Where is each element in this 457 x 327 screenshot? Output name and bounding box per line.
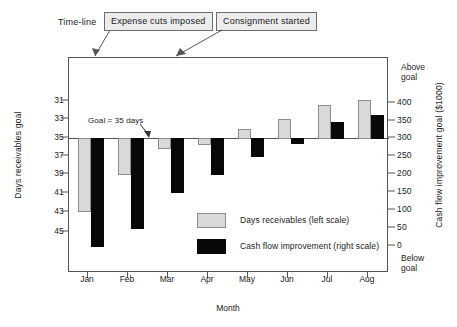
bar-days-receivables-jun bbox=[278, 119, 291, 139]
bar-days-receivables-feb bbox=[118, 138, 131, 175]
right-tick-250: 250 bbox=[397, 150, 412, 160]
right-tick-350: 350 bbox=[397, 115, 412, 125]
bar-cash-flow-aug bbox=[371, 115, 384, 139]
legend-label-days-receivables: Days receivables (left scale) bbox=[240, 215, 349, 225]
right-tick-200: 200 bbox=[397, 168, 412, 178]
right-axis-ticks: 400 350 300 250 200 150 100 50 0 bbox=[397, 0, 437, 327]
chart-figure: Time-line Expense cuts imposed Consignme… bbox=[0, 0, 457, 327]
bar-cash-flow-mar bbox=[171, 138, 184, 193]
right-tick-150: 150 bbox=[397, 186, 412, 196]
x-tick-aug: Aug bbox=[359, 274, 374, 284]
x-tick-mar: Mar bbox=[160, 274, 175, 284]
right-tick-100: 100 bbox=[397, 204, 412, 214]
bar-days-receivables-apr bbox=[198, 138, 211, 145]
bar-days-receivables-jul bbox=[318, 105, 331, 139]
x-tick-jul: Jul bbox=[322, 274, 333, 284]
legend-swatch-cash-flow bbox=[197, 239, 226, 254]
x-tick-jan: Jan bbox=[80, 274, 94, 284]
legend-label-cash-flow: Cash flow improvement (right scale) bbox=[240, 241, 379, 251]
bar-days-receivables-may bbox=[238, 129, 251, 139]
bar-cash-flow-may bbox=[251, 138, 264, 157]
bar-days-receivables-mar bbox=[158, 138, 171, 149]
bar-cash-flow-apr bbox=[211, 138, 224, 175]
right-tick-400: 400 bbox=[397, 97, 412, 107]
x-axis-title: Month bbox=[68, 303, 388, 313]
right-tick-50: 50 bbox=[397, 222, 407, 232]
left-tick-45: 45 bbox=[4, 226, 64, 236]
callout-consignment: Consignment started bbox=[216, 12, 317, 31]
x-tick-feb: Feb bbox=[120, 274, 135, 284]
plot-area: Days receivables (left scale) Cash flow … bbox=[68, 57, 388, 272]
x-tick-may: May bbox=[239, 274, 255, 284]
x-tick-apr: Apr bbox=[200, 274, 213, 284]
bar-cash-flow-jun bbox=[291, 138, 304, 144]
left-axis-title: Days receivables goal bbox=[13, 85, 23, 225]
bar-days-receivables-jan bbox=[78, 138, 91, 212]
left-axis-ticks: 31 33 35 37 39 41 43 45 bbox=[0, 0, 64, 327]
right-tick-0: 0 bbox=[397, 240, 402, 250]
right-tick-300: 300 bbox=[397, 132, 412, 142]
right-axis-title: Cash flow improvement goal ($1000) bbox=[434, 65, 444, 245]
callout-expense-cuts: Expense cuts imposed bbox=[104, 12, 213, 31]
bar-days-receivables-aug bbox=[358, 100, 371, 139]
bar-cash-flow-jul bbox=[331, 122, 344, 139]
right-axis-tick-marks bbox=[388, 0, 396, 327]
goal-annotation-label: Goal = 35 days bbox=[88, 116, 143, 125]
bar-cash-flow-jan bbox=[91, 138, 104, 247]
legend-swatch-days-receivables bbox=[197, 213, 226, 228]
bar-cash-flow-feb bbox=[131, 138, 144, 229]
x-tick-jun: Jun bbox=[280, 274, 294, 284]
